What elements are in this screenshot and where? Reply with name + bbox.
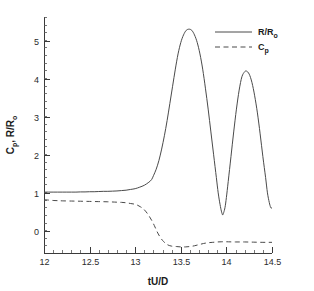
x-tick-label: 13 [130,257,140,267]
legend-label-r-over-r0: R/Ro [258,27,278,39]
x-axis-title: tU/D [148,276,169,287]
data-series [44,29,314,247]
y-tick-label: 2 [34,151,39,161]
x-tick-label: 13.5 [173,257,191,267]
line-chart-svg: 1212.51313.51414.5012345 tU/D Cp, R/Ro R… [0,0,314,291]
y-axis-title: Cp, R/Ro [5,116,19,155]
y-axis-title-part-3: , R/R [5,119,16,143]
legend: R/Ro Cp [215,27,278,55]
y-tick-label: 5 [34,37,39,47]
chart-figure: 1212.51313.51414.5012345 tU/D Cp, R/Ro R… [0,0,314,291]
x-tick-label: 14 [221,257,231,267]
x-tick-label: 12.5 [82,257,100,267]
axes [44,17,273,254]
y-tick-label: 3 [34,113,39,123]
series-line-r-over-r0 [44,29,314,215]
y-tick-label: 4 [34,75,39,85]
axis-frame [45,17,273,254]
y-tick-label: 1 [34,189,39,199]
x-tick-label: 14.5 [264,257,282,267]
svg-text:Cp, R/Ro: Cp, R/Ro [5,116,19,155]
y-tick-label: 0 [34,227,39,237]
y-axis-title-part-4: o [11,116,18,120]
legend-label-cp: Cp [258,42,269,55]
series-line-cp [44,200,314,247]
y-axis-title-part-1: C [5,147,16,154]
x-tick-label: 12 [39,257,49,267]
